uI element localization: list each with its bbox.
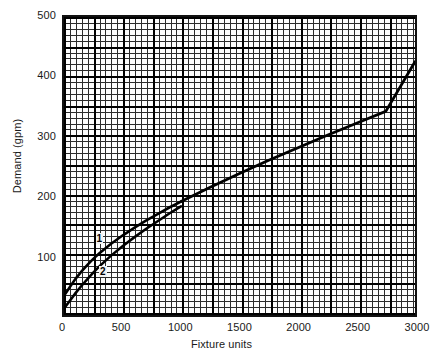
curve-2-path [64,206,181,308]
x-axis-label: Fixture units [0,338,443,350]
plot-area: 1 2 [62,15,417,317]
x-tick-label: 3000 [387,321,443,334]
x-tick-label: 1500 [210,321,270,334]
y-tick-label: 300 [0,130,56,143]
y-tick-label: 500 [0,9,56,22]
y-tick-label: 100 [0,251,56,264]
curve-1-path [64,202,181,296]
curve-label-2: 2 [99,266,107,277]
curve-layer [64,17,415,316]
x-tick-label: 1000 [150,321,210,334]
merged-curve-path [181,62,415,202]
curve-label-1: 1 [96,233,104,244]
y-axis-label: Demand (gpm) [11,76,23,236]
demand-vs-fixture-units-chart: 1 2 0 500 1000 1500 2000 2500 3000 100 2… [0,0,443,362]
x-tick-label: 2500 [328,321,388,334]
x-tick-label: 2000 [269,321,329,334]
y-tick-label: 400 [0,69,56,82]
y-tick-label: 200 [0,190,56,203]
x-tick-label: 0 [32,321,92,334]
x-tick-label: 500 [91,321,151,334]
